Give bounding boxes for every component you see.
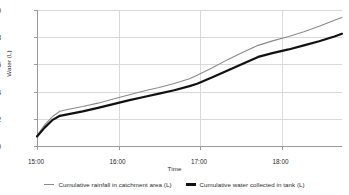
y-tick-label-2: 2 [0,117,1,123]
x-tick-label-1700: 17:00 [191,159,207,165]
x-tick-label-1600: 16:00 [110,159,126,165]
series-lines [37,10,342,146]
x-tick-label-1500: 15:00 [28,159,44,165]
legend-item-rainfall: Cumulative rainfall in catchment area (L… [44,181,171,188]
plot-area: 10 8 6 4 2 0 15:00 16:00 17:00 18:00 [37,10,342,146]
x-axis-title: Time [0,165,349,172]
chart-legend: Cumulative rainfall in catchment area (L… [0,181,349,188]
y-tick-label-10: 10 [0,8,1,14]
y-tick-label-0: 0 [0,144,1,150]
x-tick-mark-1800 [282,147,283,150]
y-tick-label-8: 8 [0,35,1,41]
x-tick-mark-1600 [119,147,120,150]
legend-label-tank: Cumulative water collected in tank (L) [200,181,305,188]
x-tick-mark-1500 [37,147,38,150]
y-tick-label-6: 6 [0,62,1,68]
legend-item-tank: Cumulative water collected in tank (L) [186,181,305,188]
legend-swatch-rainfall-icon [44,184,54,186]
legend-label-rainfall: Cumulative rainfall in catchment area (L… [58,181,171,188]
series-line-tank [37,34,342,137]
x-tick-mark-1700 [200,147,201,150]
y-tick-label-4: 4 [0,90,1,96]
y-axis-title: Water (L) [5,34,12,94]
legend-swatch-tank-icon [186,183,196,186]
series-line-rainfall [37,17,342,135]
line-chart: Water (L) Time 10 8 6 4 2 0 15:00 16:00 … [0,0,349,195]
x-tick-label-1800: 18:00 [273,159,289,165]
